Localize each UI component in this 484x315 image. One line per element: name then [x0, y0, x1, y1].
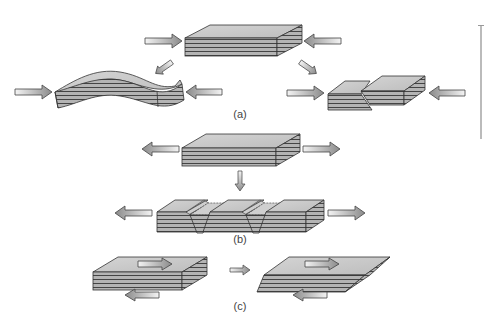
edge-bracket: [480, 25, 482, 139]
slab-original-b: [182, 134, 300, 166]
arrow-down-icon: [235, 171, 245, 191]
arrow-down-left-icon: [153, 58, 175, 78]
reverse-fault-block: [328, 76, 425, 110]
arrow-left-icon: [125, 289, 159, 301]
panel-a: [15, 25, 465, 110]
panel-label-c: (c): [234, 300, 247, 312]
panel-label-a: (a): [233, 108, 246, 120]
arrow-right-icon: [328, 206, 365, 220]
arrow-left-icon: [429, 86, 465, 100]
arrow-right-icon: [303, 142, 340, 156]
arrow-right-icon: [15, 85, 52, 99]
panel-c: [93, 257, 390, 301]
arrow-left-icon: [304, 34, 341, 48]
stress-deformation-diagram: [0, 0, 484, 315]
fold-block: [55, 71, 184, 108]
edge-bracket-tick: [478, 25, 484, 26]
panel-b: [115, 134, 365, 233]
arrow-down-right-icon: [297, 58, 319, 78]
slab-original-a: [185, 25, 302, 56]
arrow-right-icon: [145, 34, 182, 48]
arrow-left-icon: [115, 206, 152, 220]
arrow-left-icon: [142, 142, 179, 156]
arrow-left-icon: [186, 85, 222, 99]
arrow-right-icon: [287, 86, 324, 100]
normal-fault-block: [157, 200, 324, 233]
panel-label-b: (b): [233, 233, 246, 245]
arrow-right-icon: [230, 265, 250, 275]
